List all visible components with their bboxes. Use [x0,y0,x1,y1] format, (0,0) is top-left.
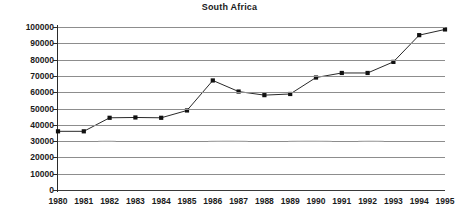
gridline [58,174,445,175]
data-point-marker: 1982: 44300 [108,116,112,120]
y-axis-tick-label: 50000 [2,105,54,113]
y-axis-tick-label: 70000 [2,72,54,80]
chart-title: South Africa [0,2,459,12]
scan-artifact [208,140,248,142]
y-axis-tick-label: 80000 [2,56,54,64]
y-axis-tick-label: 20000 [2,153,54,161]
scan-artifact [358,140,384,142]
data-point-marker: 1991: 71800 [340,71,344,75]
data-point-marker: 1981: 36000 [82,129,86,133]
y-axis-tick-label: 0 [2,186,54,194]
scan-artifact [288,140,332,142]
data-point-marker: 1984: 44300 [159,116,163,120]
scan-artifact [98,140,116,142]
gridline [58,60,445,61]
data-point-marker: 1992: 71800 [366,71,370,75]
chart-figure: South Africa 010000200003000040000500006… [0,0,459,218]
series-line [58,29,445,131]
data-point-marker: 1988: 58200 [262,93,266,97]
gridline [58,43,445,44]
x-axis-tick-label: 1995 [430,197,459,206]
gridline [58,125,445,126]
y-axis-labels: 0100002000030000400005000060000700008000… [0,0,54,218]
gridline [58,27,445,28]
y-axis-tick-label: 100000 [2,23,54,31]
data-point-marker: 1986: 67200 [211,78,215,82]
data-point-marker: 1994: 95000 [417,33,421,37]
x-axis-labels: 1980198119821983198419851986198719881989… [58,197,445,211]
data-point-marker: 1980: 36000 [56,129,60,133]
y-axis-tick-label: 40000 [2,121,54,129]
gridline [58,190,445,191]
gridline [58,141,445,142]
gridline [58,76,445,77]
data-point-marker: 1983: 44500 [133,115,137,119]
plot-area: 1980: 360001981: 360001982: 443001983: 4… [58,27,445,190]
y-axis-tick-label: 90000 [2,39,54,47]
gridline [58,92,445,93]
y-axis-tick-label: 30000 [2,137,54,145]
y-axis-tick-label: 10000 [2,170,54,178]
gridline [58,109,445,110]
y-axis-tick-label: 60000 [2,88,54,96]
gridline [58,157,445,158]
